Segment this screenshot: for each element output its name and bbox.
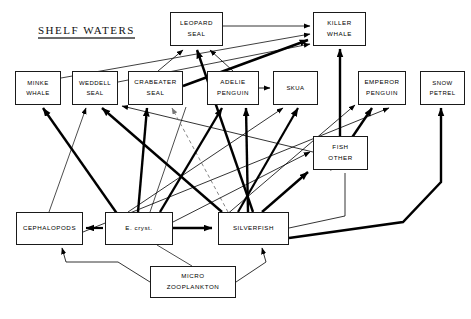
node-label: MINKE WHALE: [26, 78, 50, 99]
node-leopard-seal[interactable]: LEOPARD SEAL: [170, 12, 223, 46]
node-label: CEPHALOPODS: [23, 223, 76, 234]
node-cephalopods[interactable]: CEPHALOPODS: [16, 212, 83, 245]
node-label: WEDDELL SEAL: [79, 78, 111, 99]
page-title: SHELF WATERS: [38, 24, 135, 36]
food-web-diagram: SHELF WATERS LEOPARD SEALKILLER WHALEMIN…: [0, 0, 471, 319]
node-label: CRABEATER SEAL: [134, 77, 176, 98]
node-label: FISH OTHER: [328, 142, 352, 163]
node-label: MICRO ZOOPLANKTON: [167, 271, 220, 292]
links-into-skua: [128, 88, 298, 212]
node-label: KILLER WHALE: [327, 18, 352, 39]
node-weddell-seal[interactable]: WEDDELL SEAL: [72, 71, 118, 105]
node-emperor-penguin[interactable]: EMPEROR PENGUIN: [358, 71, 406, 105]
node-crabeater-seal[interactable]: CRABEATER SEAL: [128, 71, 183, 105]
node-skua[interactable]: SKUA: [273, 71, 318, 105]
node-micro-zooplankton[interactable]: MICRO ZOOPLANKTON: [150, 266, 236, 298]
title-underline: [38, 37, 135, 39]
node-label: SNOW PETREL: [429, 78, 455, 99]
node-snow-petrel[interactable]: SNOW PETREL: [420, 71, 465, 105]
node-label: EMPEROR PENGUIN: [364, 77, 399, 98]
node-label: ADELIE PENGUIN: [217, 77, 249, 98]
links-into-snow-petrel: [289, 108, 441, 238]
node-label: SKUA: [286, 83, 304, 93]
node-label: LEOPARD SEAL: [180, 18, 213, 39]
diagram-title: SHELF WATERS: [38, 24, 135, 39]
node-label: E. cryst.: [125, 223, 152, 234]
node-label: SILVERFISH: [233, 223, 274, 234]
node-fish-other[interactable]: FISH OTHER: [313, 136, 368, 170]
node-e-cryst[interactable]: E. cryst.: [105, 212, 173, 245]
node-minke-whale[interactable]: MINKE WHALE: [15, 71, 61, 105]
node-killer-whale[interactable]: KILLER WHALE: [313, 12, 366, 46]
node-adelie-penguin[interactable]: ADELIE PENGUIN: [207, 71, 259, 105]
node-silverfish[interactable]: SILVERFISH: [218, 212, 289, 245]
